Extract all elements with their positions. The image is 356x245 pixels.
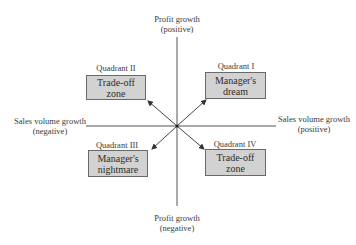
quadrant-i-line2: dream [223, 86, 248, 97]
arrow-q2 [148, 101, 177, 126]
axis-label-right-line1: Sales volume growth [272, 114, 356, 124]
axis-label-top-line1: Profit growth [137, 14, 217, 24]
axis-label-top-line2: (positive) [137, 24, 217, 34]
axis-label-right-line2: (positive) [272, 124, 356, 134]
axis-label-left-line1: Sales volume growth [10, 116, 90, 126]
arrow-q1 [177, 100, 206, 126]
quadrant-iii-line1: Manager's [97, 153, 138, 164]
quadrant-i-label: Quadrant I [206, 61, 266, 71]
quadrant-ii-line1: Trade-off [97, 77, 135, 88]
axis-label-bottom-line1: Profit growth [137, 213, 217, 223]
arrow-q4 [177, 126, 204, 149]
arrow-q3 [152, 126, 177, 149]
axis-label-top: Profit growth (positive) [137, 14, 217, 34]
quadrant-iv-line1: Trade-off [217, 152, 255, 163]
quadrant-ii-line2: zone [107, 88, 126, 99]
axis-label-left: Sales volume growth (negative) [10, 116, 90, 136]
quadrant-iii-line2: nightmare [98, 164, 139, 175]
quadrant-iv-box: Trade-off zone [205, 149, 266, 176]
quadrant-iv-line2: zone [226, 163, 245, 174]
quadrant-i-line1: Manager's [215, 75, 256, 86]
axis-label-bottom: Profit growth (negative) [137, 213, 217, 233]
quadrant-iv-label: Quadrant IV [204, 139, 266, 149]
quadrant-i-box: Manager's dream [205, 72, 266, 99]
axis-label-left-line2: (negative) [10, 126, 90, 136]
quadrant-ii-label: Quadrant II [86, 63, 146, 73]
axis-label-bottom-line2: (negative) [137, 223, 217, 233]
quadrant-iii-label: Quadrant III [86, 140, 148, 150]
quadrant-iii-box: Manager's nightmare [88, 150, 148, 177]
quadrant-ii-box: Trade-off zone [86, 75, 146, 100]
origin-point [176, 125, 179, 128]
axis-label-right: Sales volume growth (positive) [272, 114, 356, 134]
